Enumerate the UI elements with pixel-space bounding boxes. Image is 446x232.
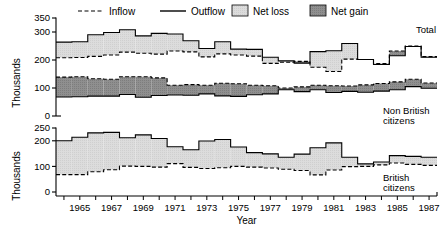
british-net-loss-segment [135, 135, 151, 166]
legend-outflow-label: Outflow [191, 6, 226, 17]
british-net-loss-segment [167, 147, 183, 164]
total-net-loss-segment [72, 42, 88, 58]
bottom-panel-ytick-label: 100 [34, 161, 50, 172]
x-axis-tick-label: 1969 [133, 202, 154, 213]
total-net-loss-segment [88, 35, 104, 57]
x-axis-tick-label: 1967 [101, 202, 122, 213]
top-panel-ytick-label: 100 [34, 82, 50, 93]
total-net-loss-segment [215, 42, 231, 54]
non-british-net-gain-segment [167, 85, 183, 95]
non-british-net-gain-segment [120, 77, 136, 95]
british-net-loss-segment [231, 147, 247, 166]
top-panel-y-axis-title: Thousands [11, 58, 22, 107]
british-net-loss-segment [310, 148, 326, 175]
panel-label-british-line2: citizens [383, 182, 415, 193]
panel-british-citizens: 0100200250ThousandsBritishcitizens196519… [11, 122, 440, 226]
non-british-net-gain-segment [199, 85, 215, 94]
x-axis-tick-label: 1985 [387, 202, 408, 213]
panel-label-non-british-line2: citizens [383, 115, 415, 126]
legend-inflow-label: Inflow [109, 6, 136, 17]
x-axis-tick-label: 1977 [260, 202, 281, 213]
british-net-loss-segment [326, 143, 342, 170]
total-net-loss-segment [262, 57, 278, 63]
total-net-loss-segment [326, 51, 342, 72]
non-british-net-gain-segment [104, 79, 120, 96]
non-british-net-gain-segment [310, 85, 326, 89]
non-british-net-gain-segment [294, 87, 310, 92]
bottom-panel-ytick-label: 250 [34, 122, 50, 133]
british-net-loss-segment [389, 156, 405, 163]
legend-net-gain-swatch [310, 5, 326, 16]
british-net-loss-segment [151, 139, 167, 168]
total-net-loss-segment [310, 52, 326, 68]
british-net-loss-segment [56, 141, 72, 175]
total-net-loss-segment [151, 33, 167, 54]
total-net-loss-segment [135, 36, 151, 53]
x-axis-tick-label: 1975 [228, 202, 249, 213]
x-axis-tick-label: 1965 [69, 202, 90, 213]
panel-total-and-non-british: 0100200300350ThousandsTotalNon Britishci… [11, 12, 437, 126]
non-british-net-gain-segment [389, 82, 405, 90]
chart-legend: InflowOutflowNet lossNet gain [78, 5, 368, 17]
british-net-loss-segment [215, 140, 231, 168]
x-axis-tick-label: 1971 [164, 202, 185, 213]
x-axis-tick-label: 1979 [291, 202, 312, 213]
x-axis-tick-label: 1987 [418, 202, 439, 213]
british-net-loss-segment [199, 141, 215, 168]
british-net-loss-segment [405, 156, 421, 164]
non-british-net-gain-segment [247, 85, 263, 95]
british-net-loss-segment [72, 137, 88, 174]
migration-step-chart: InflowOutflowNet lossNet gain01002003003… [0, 0, 446, 232]
british-net-loss-segment [104, 132, 120, 169]
british-net-loss-segment [262, 154, 278, 168]
british-net-loss-segment [278, 157, 294, 169]
non-british-net-gain-segment [358, 85, 374, 92]
x-axis-tick-label: 1981 [323, 202, 344, 213]
non-british-net-gain-segment [215, 83, 231, 96]
non-british-net-gain-segment [342, 86, 358, 91]
non-british-net-gain-segment [374, 84, 390, 92]
bottom-panel-ytick-label: 200 [34, 135, 50, 146]
non-british-net-gain-segment [135, 77, 151, 97]
british-net-loss-segment [183, 150, 199, 168]
non-british-net-gain-segment [326, 86, 342, 93]
bottom-panel-ytick-label: 0 [45, 186, 50, 197]
british-net-loss-segment [120, 138, 136, 166]
panel-label-total: Total [416, 24, 436, 35]
total-net-gain-segment [389, 51, 405, 56]
top-panel-ytick-label: 200 [34, 54, 50, 65]
bottom-panel-y-axis-title: Thousands [11, 151, 22, 200]
legend-net-loss-swatch [232, 5, 248, 16]
total-net-loss-segment [247, 49, 263, 56]
legend-net-loss-label: Net loss [253, 6, 289, 17]
british-net-loss-segment [294, 154, 310, 170]
legend-net-gain-label: Net gain [331, 6, 368, 17]
non-british-net-gain-segment [183, 85, 199, 96]
x-axis-tick-label: 1973 [196, 202, 217, 213]
x-axis-title: Year [236, 215, 257, 226]
top-panel-ytick-label: 350 [34, 12, 50, 23]
total-net-loss-segment [120, 30, 136, 52]
total-net-loss-segment [183, 41, 199, 52]
total-net-loss-segment [231, 49, 247, 55]
british-net-loss-segment [88, 133, 104, 172]
british-net-loss-segment [247, 153, 263, 168]
non-british-net-gain-segment [231, 84, 247, 97]
non-british-net-gain-segment [262, 86, 278, 94]
chart-figure: InflowOutflowNet lossNet gain01002003003… [0, 0, 446, 232]
british-net-loss-segment [342, 157, 358, 166]
non-british-net-gain-segment [88, 79, 104, 96]
non-british-net-gain-segment [421, 83, 437, 88]
top-panel-ytick-label: 0 [45, 110, 50, 121]
total-net-loss-segment [342, 43, 358, 59]
non-british-net-gain-segment [151, 78, 167, 96]
total-net-loss-segment [104, 33, 120, 55]
non-british-net-gain-segment [405, 79, 421, 86]
non-british-net-gain-segment [72, 77, 88, 97]
non-british-net-gain-segment [56, 77, 72, 97]
total-net-loss-segment [199, 49, 215, 57]
x-axis-tick-label: 1983 [355, 202, 376, 213]
top-panel-ytick-label: 300 [34, 26, 50, 37]
total-net-loss-segment [167, 34, 183, 51]
total-net-loss-segment [56, 42, 72, 58]
